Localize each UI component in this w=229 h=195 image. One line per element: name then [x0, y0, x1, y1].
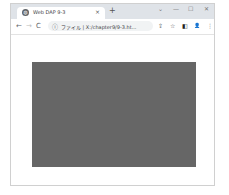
minimize-button[interactable]: —: [173, 5, 179, 12]
page-content: [11, 35, 214, 185]
browser-tab[interactable]: ◍ Web DAP 9-3 ×: [17, 7, 105, 19]
close-tab-icon[interactable]: ×: [95, 8, 100, 15]
share-icon[interactable]: ⇪: [158, 22, 163, 29]
back-button[interactable]: ←: [16, 22, 22, 30]
menu-icon[interactable]: ⋮: [207, 22, 213, 29]
gray-rectangle: [32, 62, 196, 167]
maximize-button[interactable]: ☐: [188, 5, 193, 12]
browser-toolbar: ← → C ⓘ ファイル | X:/chapter9/9-3.ht... ⇪ ☆…: [11, 19, 214, 35]
browser-window: ◍ Web DAP 9-3 × + ⌄ — ☐ ✕ ← → C ⓘ ファイル |…: [10, 3, 215, 186]
tab-search-icon[interactable]: ⌄: [158, 5, 163, 12]
profile-icon[interactable]: 👤: [194, 22, 200, 28]
site-info-icon[interactable]: ⓘ: [52, 22, 58, 31]
tab-title: Web DAP 9-3: [33, 9, 65, 15]
bookmark-star-icon[interactable]: ☆: [170, 22, 175, 29]
reload-button[interactable]: C: [36, 22, 41, 30]
address-text[interactable]: ファイル | X:/chapter9/9-3.ht...: [61, 23, 136, 30]
close-window-button[interactable]: ✕: [204, 5, 209, 12]
globe-icon: ◍: [22, 9, 29, 16]
new-tab-button[interactable]: +: [109, 6, 116, 15]
tab-strip: ◍ Web DAP 9-3 × + ⌄ — ☐ ✕: [11, 4, 214, 19]
side-panel-icon[interactable]: ◧: [182, 22, 188, 29]
forward-button[interactable]: →: [26, 22, 32, 30]
address-bar[interactable]: ⓘ ファイル | X:/chapter9/9-3.ht...: [48, 21, 153, 31]
